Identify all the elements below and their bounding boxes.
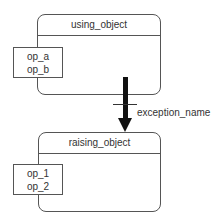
exception-arrow-shaft — [123, 77, 128, 119]
operation-op-b: op_b — [14, 63, 62, 76]
raising-object-title: raising_object — [39, 133, 160, 154]
exception-label: exception_name — [137, 107, 210, 118]
using-object-operations: op_a op_b — [13, 47, 63, 78]
exception-arrow-head-icon — [118, 118, 132, 132]
using-object-title: using_object — [38, 15, 160, 36]
operation-op-1: op_1 — [14, 167, 62, 180]
raising-object-operations: op_1 op_2 — [13, 164, 63, 195]
operation-op-a: op_a — [14, 50, 62, 63]
operation-op-2: op_2 — [14, 180, 62, 193]
exception-crossbar — [113, 104, 137, 105]
